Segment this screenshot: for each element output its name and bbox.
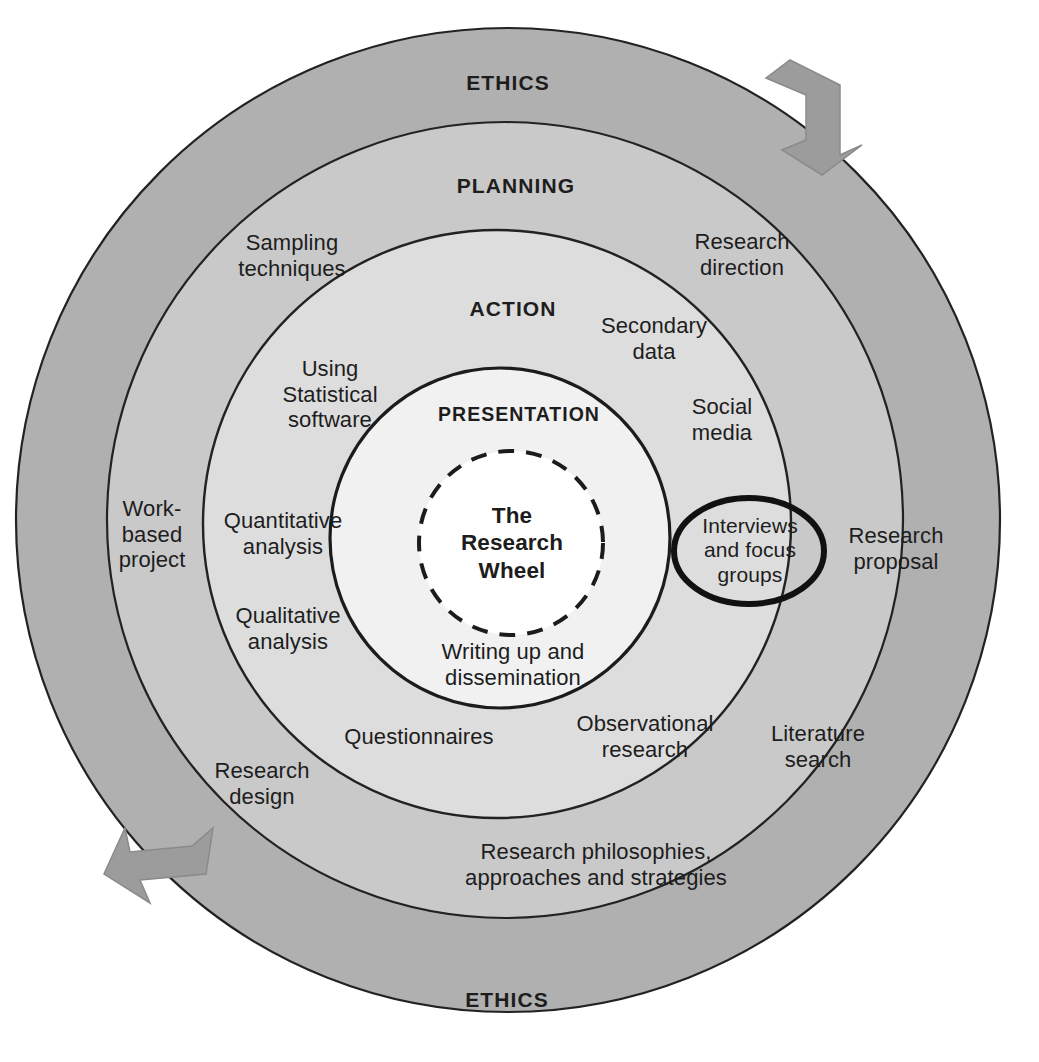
- label-line1: Research: [215, 758, 310, 784]
- center-label: The Research Wheel: [461, 502, 563, 584]
- label-line2: analysis: [224, 534, 343, 560]
- action-item-using-statistical-software: Using Statistical software: [282, 356, 377, 433]
- label-line2: techniques: [238, 256, 345, 282]
- planning-item-sampling-techniques: Sampling techniques: [238, 230, 345, 281]
- label-line2: and focus: [702, 539, 798, 563]
- label-line2: proposal: [849, 549, 944, 575]
- label-line1: Research: [695, 229, 790, 255]
- label-line1: Using: [282, 356, 377, 382]
- label-line2: dissemination: [442, 665, 585, 691]
- label-line2: direction: [695, 255, 790, 281]
- label-line2: based: [119, 521, 186, 547]
- label-line1: Literature: [771, 721, 865, 747]
- label-line1: Research: [849, 523, 944, 549]
- label-line1: Social: [692, 394, 753, 420]
- label-line3: project: [119, 547, 186, 573]
- action-item-social-media: Social media: [692, 394, 753, 445]
- research-wheel-diagram: ETHICS ETHICS PLANNING ACTION PRESENTATI…: [0, 0, 1039, 1062]
- center-label-line3: Wheel: [461, 557, 563, 584]
- planning-item-work-based-project: Work- based project: [119, 496, 186, 573]
- ring-title-action: ACTION: [469, 297, 556, 321]
- label-line1: Sampling: [238, 230, 345, 256]
- ring-title-presentation: PRESENTATION: [438, 403, 600, 426]
- planning-item-research-proposal: Research proposal: [849, 523, 944, 574]
- label-line1: Observational: [576, 711, 713, 737]
- planning-item-research-philosophies: Research philosophies, approaches and st…: [465, 839, 727, 890]
- action-item-observational-research: Observational research: [576, 711, 713, 762]
- label-line2: approaches and strategies: [465, 865, 727, 891]
- label-line3: groups: [702, 563, 798, 587]
- action-item-interviews-and-focus-groups: Interviews and focus groups: [702, 514, 798, 587]
- presentation-item-writing-up-and-dissemination: Writing up and dissemination: [442, 639, 585, 690]
- label-line1: Work-: [119, 496, 186, 522]
- label-line2: search: [771, 747, 865, 773]
- label-line1: Writing up and: [442, 639, 585, 665]
- label-line2: media: [692, 420, 753, 446]
- label-line1: Quantitative: [224, 508, 343, 534]
- action-item-qualitative-analysis: Qualitative analysis: [235, 603, 340, 654]
- action-item-quantitative-analysis: Quantitative analysis: [224, 508, 343, 559]
- label-line1: Research philosophies,: [465, 839, 727, 865]
- label-line1: Secondary: [601, 313, 707, 339]
- ring-title-planning: PLANNING: [457, 174, 575, 198]
- center-label-line2: Research: [461, 529, 563, 556]
- label-line2: Statistical: [282, 381, 377, 407]
- ring-title-ethics-bottom: ETHICS: [465, 988, 549, 1012]
- label-line1: Questionnaires: [344, 724, 493, 750]
- action-item-questionnaires: Questionnaires: [344, 724, 493, 750]
- label-line3: software: [282, 407, 377, 433]
- label-line1: Interviews: [702, 514, 798, 538]
- action-item-secondary-data: Secondary data: [601, 313, 707, 364]
- label-line2: analysis: [235, 629, 340, 655]
- center-label-line1: The: [461, 502, 563, 529]
- planning-item-research-direction: Research direction: [695, 229, 790, 280]
- label-line1: Qualitative: [235, 603, 340, 629]
- planning-item-research-design: Research design: [215, 758, 310, 809]
- label-line2: data: [601, 339, 707, 365]
- ring-title-ethics-top: ETHICS: [466, 71, 550, 95]
- label-line2: design: [215, 784, 310, 810]
- planning-item-literature-search: Literature search: [771, 721, 865, 772]
- label-line2: research: [576, 737, 713, 763]
